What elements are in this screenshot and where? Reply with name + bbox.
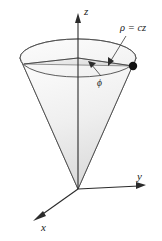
y-axis-line [78, 186, 139, 189]
phi-angle-label: ϕ [97, 78, 102, 88]
marked-point [129, 62, 137, 70]
z-axis-arrowhead [75, 13, 81, 23]
y-axis: y [78, 170, 146, 189]
cone-diagram: z y x ρ = cz ϕ [0, 0, 162, 241]
x-axis-line [40, 189, 78, 216]
figure-container: z y x ρ = cz ϕ [0, 0, 162, 241]
z-axis-label: z [83, 5, 89, 17]
point-on-cone-dot [129, 62, 137, 70]
y-axis-arrowhead [136, 182, 146, 189]
y-axis-label: y [136, 170, 142, 182]
x-axis: x [33, 189, 78, 233]
x-axis-label: x [40, 221, 46, 233]
surface-equation-label: ρ = cz [119, 22, 146, 33]
